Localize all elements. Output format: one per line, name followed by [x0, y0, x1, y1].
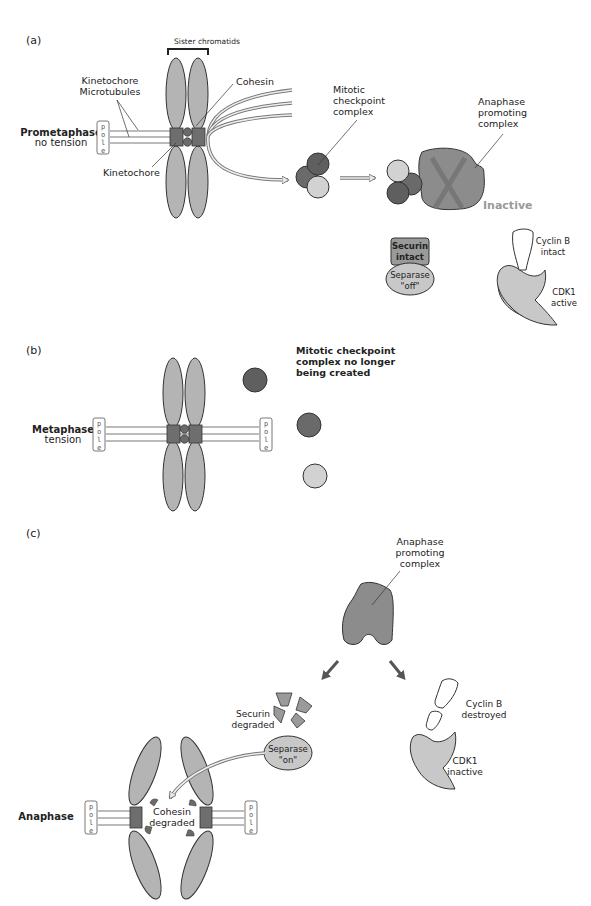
- kinetochore-left: [130, 807, 142, 828]
- svg-text:l: l: [89, 819, 93, 827]
- cdk1-inactive: [410, 732, 456, 789]
- cohesin-icon: [183, 128, 191, 136]
- arrow-to-securin: [324, 661, 338, 677]
- apc-label-3: complex: [478, 118, 519, 129]
- kinetochore-right: [189, 425, 202, 443]
- pole-icon: p o l e: [245, 801, 257, 835]
- separase-on-label-2: "on": [279, 755, 297, 765]
- svg-text:l: l: [264, 436, 268, 444]
- panel-c-label: (c): [26, 527, 41, 540]
- cohesin-label: Cohesin: [236, 76, 274, 87]
- svg-text:p: p: [101, 123, 105, 131]
- cyclin-destroyed-label-1: Cyclin B: [466, 699, 502, 709]
- apc-active-label-1: Anaphase: [396, 536, 443, 547]
- pole-icon: p o l e: [93, 418, 105, 452]
- kinetochore-label: Kinetochore: [103, 167, 160, 178]
- securin-label-1: Securin: [392, 241, 428, 251]
- apc-inactive-status: Inactive: [483, 199, 533, 212]
- svg-text:l: l: [249, 819, 253, 827]
- cohesin-icon: [183, 138, 191, 146]
- apc-active-label-3: complex: [400, 558, 441, 569]
- bound-mcc: [387, 160, 422, 204]
- svg-text:e: e: [101, 147, 105, 155]
- mcc-label-2: checkpoint: [333, 95, 385, 106]
- tension-label: tension: [45, 434, 82, 445]
- cdk1-label-2: active: [551, 298, 577, 308]
- separase-label-1: Separase: [390, 270, 430, 280]
- kinetochore-left: [167, 425, 180, 443]
- pole-icon: p o l e: [85, 801, 97, 835]
- kinetochore-left: [170, 128, 183, 146]
- mitosis-diagram: (a) Sister chromatids Prometaphase no te…: [0, 0, 591, 906]
- svg-text:e: e: [249, 827, 253, 835]
- no-tension-label: no tension: [35, 137, 88, 148]
- separase-on-label-1: Separase: [268, 744, 308, 754]
- apc-active-label-2: promoting: [395, 547, 444, 558]
- cyclin-label-2: intact: [541, 247, 566, 257]
- cyclin-b-fragment: [426, 711, 442, 730]
- cyclin-label-1: Cyclin B: [536, 236, 570, 246]
- mcc-label-1: Mitotic: [333, 84, 365, 95]
- cdk1-label-1: CDK1: [552, 287, 575, 297]
- securin-label-2: intact: [396, 252, 424, 262]
- svg-text:p: p: [97, 420, 101, 428]
- svg-text:e: e: [97, 444, 101, 452]
- kinetochore-microtubules-label-2: Microtubules: [80, 86, 141, 97]
- svg-text:l: l: [97, 436, 101, 444]
- panel-a-label: (a): [26, 34, 41, 47]
- cdk1-inactive-label-1: CDK1: [453, 756, 478, 766]
- apc-label-1: Anaphase: [478, 96, 525, 107]
- apc-active: [342, 582, 393, 644]
- sister-chromatids-label: Sister chromatids: [174, 37, 240, 46]
- svg-text:o: o: [97, 428, 101, 436]
- panel-a: (a) Sister chromatids Prometaphase no te…: [20, 34, 577, 325]
- mcc-no-longer-label-1: Mitotic checkpoint: [296, 345, 396, 356]
- panel-b-label: (b): [26, 344, 42, 357]
- mcc-no-longer-label-3: being created: [296, 367, 370, 378]
- cdk1-active: [497, 266, 557, 326]
- securin-degraded-label-2: degraded: [231, 720, 274, 730]
- svg-text:e: e: [264, 444, 268, 452]
- mcc-no-longer-label-2: complex no longer: [296, 356, 395, 367]
- arrow-to-cyclin: [390, 661, 403, 677]
- free-mcc-protein-dark: [243, 368, 267, 392]
- svg-text:p: p: [89, 803, 93, 811]
- securin-fragments: [274, 693, 312, 728]
- securin-degraded-label-1: Securin: [236, 709, 270, 719]
- mcc-label-3: complex: [333, 106, 374, 117]
- cohesin-degraded-label-1: Cohesin: [153, 806, 191, 817]
- cohesin-icon: [180, 435, 188, 443]
- svg-text:p: p: [264, 420, 268, 428]
- mcc-production-arrows: [208, 90, 292, 180]
- apc-label-2: promoting: [478, 107, 527, 118]
- panel-c: (c) Anaphase promoting complex Securin d…: [18, 527, 506, 903]
- free-mcc-protein-mid: [297, 413, 321, 437]
- separase-label-2: "off": [401, 281, 420, 291]
- svg-text:o: o: [89, 811, 93, 819]
- free-mcc-protein-light: [303, 464, 327, 488]
- pole-icon: p o l e: [260, 418, 272, 452]
- pole-icon: p o l e: [97, 121, 109, 155]
- cdk1-inactive-label-2: inactive: [447, 767, 483, 777]
- cyclin-b-intact: [513, 229, 534, 270]
- cohesin-degraded-label-2: degraded: [149, 817, 195, 828]
- sister-chromatids-bracket: [168, 49, 208, 55]
- kinetochore-right: [192, 128, 205, 146]
- cyclin-b-fragment: [435, 679, 458, 708]
- mitotic-checkpoint-complex: [296, 153, 329, 198]
- cohesin-icon: [180, 425, 188, 433]
- svg-text:o: o: [264, 428, 268, 436]
- cyclin-destroyed-label-2: destroyed: [461, 710, 506, 720]
- svg-text:p: p: [249, 803, 253, 811]
- svg-text:o: o: [249, 811, 253, 819]
- kinetochore-microtubules-label-1: Kinetochore: [82, 75, 139, 86]
- svg-text:o: o: [101, 131, 105, 139]
- svg-text:l: l: [101, 139, 105, 147]
- kinetochore-right: [200, 807, 212, 828]
- panel-b: (b) Metaphase tension p o l e p o l e: [26, 344, 396, 511]
- svg-text:e: e: [89, 827, 93, 835]
- anaphase-label: Anaphase: [18, 811, 74, 822]
